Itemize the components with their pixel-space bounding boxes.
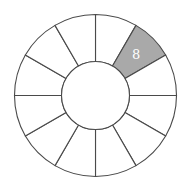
ring-diagram: 8 [0,0,188,189]
inner-circle [62,62,130,130]
segment-label: 8 [132,47,140,62]
segment-labels: 8 [132,47,140,62]
